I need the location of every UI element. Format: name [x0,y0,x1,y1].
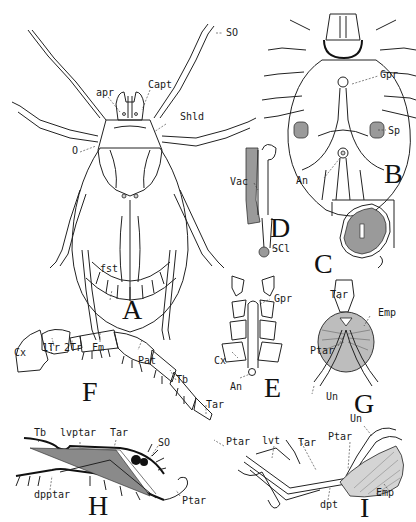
tick-anatomy-plate: SO apr Capt Shld O fst A Gpr Sp An B C V… [0,0,416,522]
panel-letter-a: A [122,296,142,324]
label-h-lvptar: lvptar [60,428,96,438]
label-h-ptar: Ptar [182,496,206,506]
label-i-emp: Emp [376,488,394,498]
label-f-1tr: 1Tr [42,343,60,353]
label-f-tb: Tb [176,375,188,385]
label-i-tar: Tar [298,438,316,448]
label-a-o: O [72,146,78,156]
panel-letter-c: C [314,250,333,278]
panel-letter-b: B [384,160,403,188]
label-h-dpptar: dpptar [34,490,70,500]
label-a-capt: Capt [148,80,172,90]
label-f-fm: Fm [92,343,104,353]
label-b-sp: Sp [388,126,400,136]
panel-letter-e: E [264,374,281,402]
label-f-cx: Cx [14,348,26,358]
label-i-un: Un [350,414,362,424]
label-i-dpt: dpt [320,500,338,510]
label-h-so: SO [158,438,170,448]
label-h-tb: Tb [34,428,46,438]
label-d-vac: Vac [230,177,248,187]
label-i-ptar: Ptar [328,432,352,442]
label-f-ptar: Ptar [226,437,250,447]
label-a-so: SO [226,28,238,38]
label-g-ptar: Ptar [310,346,334,356]
panel-a-drawing [0,0,416,522]
label-h-tar: Tar [110,428,128,438]
label-f-tar: Tar [206,400,224,410]
label-f-pat: Pat [138,356,156,366]
label-a-apr: apr [96,88,114,98]
label-g-un: Un [326,392,338,402]
label-a-shld: Shld [180,112,204,122]
label-b-gpr: Gpr [380,70,398,80]
label-e-gpr: Gpr [274,294,292,304]
label-a-fst: fst [100,264,118,274]
label-f-2tr: 2Tr [64,343,82,353]
label-b-an: An [296,176,308,186]
label-e-cx: Cx [214,356,226,366]
label-g-tar: Tar [330,290,348,300]
panel-letter-i: I [360,494,369,522]
panel-letter-h: H [88,492,108,520]
label-g-emp: Emp [378,308,396,318]
panel-letter-d: D [270,214,290,242]
label-e-an: An [230,382,242,392]
label-i-lvt: lvt [262,436,280,446]
panel-letter-f: F [82,378,98,406]
label-d-scl: SCl [272,244,290,254]
